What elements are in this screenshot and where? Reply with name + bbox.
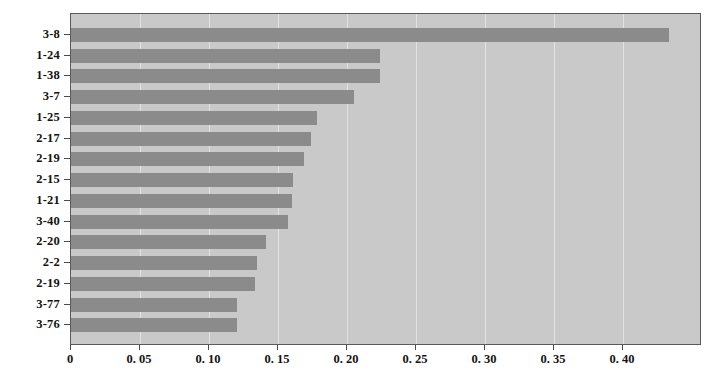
y-axis-label: 3-76 bbox=[0, 317, 60, 331]
y-axis-label-text: 3-77 bbox=[2, 297, 60, 311]
y-axis-label: 2-20 bbox=[0, 234, 60, 248]
y-axis-label: 2-15 bbox=[0, 172, 60, 186]
bar bbox=[71, 69, 380, 83]
bar-row bbox=[71, 194, 701, 208]
y-axis-tick bbox=[64, 55, 70, 56]
x-axis-label-text: 0 bbox=[67, 352, 73, 367]
y-axis-label: 1-21 bbox=[0, 193, 60, 207]
y-axis-tick bbox=[64, 304, 70, 305]
x-axis-tick bbox=[415, 345, 416, 350]
y-axis-tick bbox=[64, 138, 70, 139]
bar-row bbox=[71, 318, 701, 332]
x-axis-tick bbox=[553, 345, 554, 350]
bar bbox=[71, 152, 304, 166]
bar-row bbox=[71, 235, 701, 249]
x-axis-label-text: 0.40 bbox=[610, 352, 635, 367]
y-axis-label: 3-8 bbox=[0, 27, 60, 41]
bar bbox=[71, 28, 669, 42]
bar-row bbox=[71, 256, 701, 270]
y-axis-label-text: 2-20 bbox=[2, 234, 60, 248]
y-axis-label: 3-77 bbox=[0, 297, 60, 311]
y-axis-label-text: 2-2 bbox=[2, 255, 60, 269]
x-axis-tick bbox=[484, 345, 485, 350]
y-axis-label: 3-40 bbox=[0, 214, 60, 228]
bar-row bbox=[71, 28, 701, 42]
y-axis-label: 2-19 bbox=[0, 151, 60, 165]
bar bbox=[71, 132, 311, 146]
y-axis-tick bbox=[64, 241, 70, 242]
x-axis-tick bbox=[139, 345, 140, 350]
y-axis-label-text: 3-76 bbox=[2, 317, 60, 331]
x-axis-tick bbox=[70, 345, 71, 350]
y-axis-tick bbox=[64, 283, 70, 284]
y-axis-label: 1-25 bbox=[0, 110, 60, 124]
bar bbox=[71, 235, 266, 249]
bar bbox=[71, 111, 317, 125]
bar bbox=[71, 90, 354, 104]
y-axis-tick bbox=[64, 262, 70, 263]
x-axis-label-text: 0.10 bbox=[196, 352, 221, 367]
y-axis-tick bbox=[64, 179, 70, 180]
y-axis-label-text: 2-19 bbox=[2, 151, 60, 165]
bar bbox=[71, 173, 293, 187]
bar-row bbox=[71, 298, 701, 312]
y-axis-tick bbox=[64, 75, 70, 76]
y-axis-label-text: 2-17 bbox=[2, 131, 60, 145]
y-axis-label-text: 1-38 bbox=[2, 68, 60, 82]
x-axis-tick bbox=[346, 345, 347, 350]
x-axis-tick bbox=[622, 345, 623, 350]
bar-row bbox=[71, 215, 701, 229]
x-axis-label-text: 0.05 bbox=[127, 352, 152, 367]
bar bbox=[71, 298, 237, 312]
bar-row bbox=[71, 69, 701, 83]
x-axis-label-text: 0.15 bbox=[265, 352, 290, 367]
x-axis-label-text: 0.25 bbox=[403, 352, 428, 367]
y-axis-label: 2-2 bbox=[0, 255, 60, 269]
bar-row bbox=[71, 277, 701, 291]
y-axis-label-text: 2-19 bbox=[2, 276, 60, 290]
y-axis-label-text: 1-24 bbox=[2, 48, 60, 62]
y-axis-label: 1-38 bbox=[0, 68, 60, 82]
bar bbox=[71, 318, 237, 332]
y-axis-label: 1-24 bbox=[0, 48, 60, 62]
y-axis-tick bbox=[64, 158, 70, 159]
bar bbox=[71, 49, 380, 63]
bar bbox=[71, 277, 255, 291]
x-axis-label-text: 0.35 bbox=[541, 352, 566, 367]
y-axis-tick bbox=[64, 324, 70, 325]
y-axis-label-text: 1-21 bbox=[2, 193, 60, 207]
y-axis-label-text: 1-25 bbox=[2, 110, 60, 124]
plot-area bbox=[70, 13, 701, 345]
y-axis-tick bbox=[64, 221, 70, 222]
bar-chart: 3-81-241-383-71-252-172-192-151-213-402-… bbox=[0, 0, 718, 388]
y-axis-label-text: 3-40 bbox=[2, 214, 60, 228]
y-axis-tick bbox=[64, 34, 70, 35]
x-axis-tick bbox=[208, 345, 209, 350]
y-axis-label-text: 3-7 bbox=[2, 89, 60, 103]
y-axis-tick bbox=[64, 200, 70, 201]
bar bbox=[71, 256, 257, 270]
bar-row bbox=[71, 49, 701, 63]
y-axis-label-text: 2-15 bbox=[2, 172, 60, 186]
y-axis-tick bbox=[64, 96, 70, 97]
bar-row bbox=[71, 173, 701, 187]
bar-row bbox=[71, 132, 701, 146]
y-axis-label-text: 3-8 bbox=[2, 27, 60, 41]
bar-row bbox=[71, 111, 701, 125]
bar-row bbox=[71, 152, 701, 166]
y-axis-label: 3-7 bbox=[0, 89, 60, 103]
y-axis-label: 2-19 bbox=[0, 276, 60, 290]
x-axis-label-text: 0.30 bbox=[472, 352, 497, 367]
bar bbox=[71, 194, 292, 208]
bar bbox=[71, 215, 288, 229]
x-axis-tick bbox=[277, 345, 278, 350]
y-axis-tick bbox=[64, 117, 70, 118]
x-axis-label-text: 0.20 bbox=[334, 352, 359, 367]
bar-row bbox=[71, 90, 701, 104]
y-axis-label: 2-17 bbox=[0, 131, 60, 145]
